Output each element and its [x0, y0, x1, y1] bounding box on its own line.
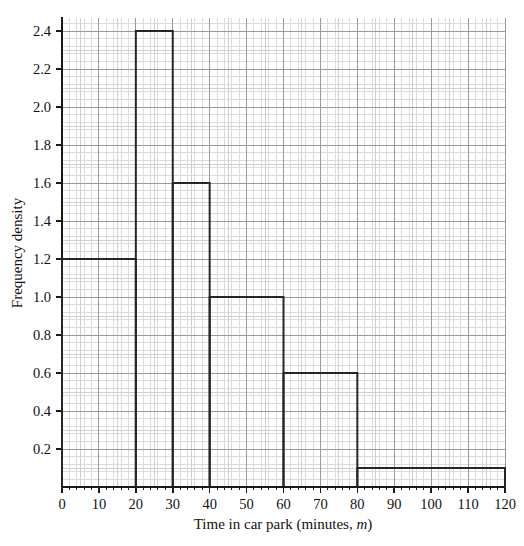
y-axis-tick-label: 0.4	[33, 403, 52, 419]
y-axis-tick-label: 0.6	[33, 365, 51, 381]
y-axis-tick-label: 1.2	[33, 251, 51, 267]
x-axis-tick-label: 100	[420, 496, 442, 512]
y-axis-tick-label: 0.2	[33, 441, 51, 457]
y-axis-tick-label: 2.4	[33, 23, 52, 39]
x-axis-tick-label: 40	[202, 496, 217, 512]
y-axis-title: Frequency density	[9, 197, 25, 308]
x-axis-tick-label: 20	[129, 496, 144, 512]
y-axis-tick-label: 1.4	[33, 213, 52, 229]
x-axis-tick-label: 10	[92, 496, 107, 512]
y-axis-tick-label: 1.0	[33, 289, 51, 305]
x-axis-tick-label: 120	[494, 496, 516, 512]
x-axis-tick-label: 80	[350, 496, 365, 512]
histogram-chart: 0102030405060708090100110120 0.20.40.60.…	[0, 0, 524, 546]
x-axis-tick-label: 50	[239, 496, 254, 512]
y-axis-tick-label: 1.8	[33, 137, 51, 153]
x-axis-tick-label: 110	[457, 496, 478, 512]
x-axis-tick-label: 30	[166, 496, 181, 512]
x-axis-tick-label: 0	[58, 496, 65, 512]
y-axis-tick-label: 0.8	[33, 327, 51, 343]
x-axis-tick-label: 70	[313, 496, 328, 512]
x-axis-title: Time in car park (minutes, m)	[194, 516, 373, 533]
chart-canvas: 0102030405060708090100110120 0.20.40.60.…	[0, 0, 524, 546]
x-axis-tick-label: 60	[276, 496, 291, 512]
y-axis-tick-label: 2.0	[33, 99, 51, 115]
y-axis-tick-label: 1.6	[33, 175, 51, 191]
y-axis-tick-label: 2.2	[33, 61, 51, 77]
x-axis-tick-label: 90	[387, 496, 402, 512]
x-axis-title-variable: m	[356, 516, 367, 532]
